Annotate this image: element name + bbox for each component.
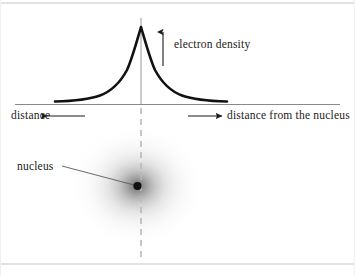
distance-label: distance xyxy=(11,109,50,121)
distance-from-nucleus-label: distance from the nucleus xyxy=(227,109,350,121)
nucleus-dot xyxy=(133,182,141,190)
nucleus-label: nucleus xyxy=(17,160,54,172)
electron-density-figure: electron density distance distance from … xyxy=(0,0,355,276)
electron-density-label: electron density xyxy=(174,38,250,50)
